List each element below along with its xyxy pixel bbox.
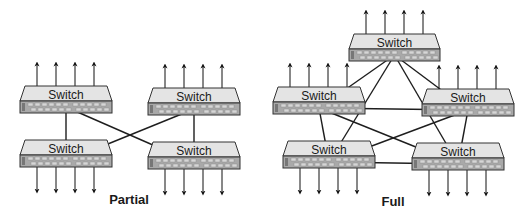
switch-port [395,56,400,59]
switch-led-block [351,51,354,59]
switch-port [465,160,470,163]
switch-port [357,158,362,161]
switch-port [319,158,324,161]
switch-port [201,105,206,108]
switch-port [326,158,331,161]
switch-led-block [285,158,288,166]
switch-port [211,110,216,113]
switch-port [305,158,310,161]
switch-f-right: Switch [422,89,514,116]
switch-port [45,108,50,111]
switch-p-br: Switch [148,142,240,169]
switch-port [489,165,494,168]
switch-port [472,160,477,163]
switch-port [312,109,317,112]
switch-port [170,105,175,108]
switch-port [353,163,358,166]
switch-port [423,165,428,168]
switch-p-tl: Switch [20,86,112,113]
switch-port [52,108,57,111]
switch-port [83,108,88,111]
switch-port [478,111,483,114]
switch-port [503,106,508,109]
switch-port [156,159,161,162]
switch-p-tr: Switch [148,88,240,115]
switch-port [63,157,68,160]
switch-port [360,56,365,59]
switch-port [447,111,452,114]
switch-led-block [22,157,25,165]
switch-port [493,160,498,163]
switch-port [66,108,71,111]
switch-port [215,159,220,162]
switch-port [316,104,321,107]
switch-port [66,162,71,165]
switch-label: Switch [176,90,211,104]
switch-port [184,105,189,108]
switch-port [166,164,171,167]
switch-port [441,160,446,163]
switch-port [28,103,33,106]
switch-port [458,165,463,168]
switch-port [80,103,85,106]
switch-port [208,105,213,108]
switch-port [49,103,54,106]
switch-port [42,157,47,160]
switch-port [333,104,338,107]
switch-port [461,111,466,114]
switch-port [90,162,95,165]
switch-port [455,160,460,163]
switch-port [73,157,78,160]
switch-port [329,163,334,166]
switch-port [218,110,223,113]
switch-port [412,56,417,59]
switch-port [63,103,68,106]
switch-led-block [150,105,153,113]
switch-port [295,104,300,107]
switch-port [298,158,303,161]
switch-port [90,108,95,111]
switch-port [229,159,234,162]
links-layer [66,55,468,164]
switch-port [159,110,164,113]
switch-port [437,165,442,168]
switch-port [31,162,36,165]
switch-port [291,158,296,161]
mesh-topology-diagram: SwitchSwitchSwitchSwitchSwitchSwitchSwit… [0,0,529,219]
switch-port [45,162,50,165]
switch-port [229,105,234,108]
switch-port [433,111,438,114]
switch-port [52,162,57,165]
switch-port [326,104,331,107]
switch-port [218,164,223,167]
switch-port [329,109,334,112]
switch-port [204,110,209,113]
switch-port [468,111,473,114]
switch-label: Switch [440,145,475,159]
switch-port [364,51,369,54]
switch-port [211,164,216,167]
switch-port [104,108,109,111]
switch-port [350,158,355,161]
switch-port [419,56,424,59]
switch-port [225,164,230,167]
switch-port [367,56,372,59]
switch-port [350,109,355,112]
switch-port [308,163,313,166]
switch-p-bl: Switch [20,140,112,167]
switch-port [343,158,348,161]
switch-led-block [22,103,25,111]
switch-port [163,159,168,162]
switch-port [302,104,307,107]
switch-port [201,159,206,162]
switch-port [80,157,85,160]
switch-port [426,56,431,59]
switch-label: Switch [450,91,485,105]
switch-label: Switch [48,88,83,102]
switch-port [204,164,209,167]
switch-port [381,56,386,59]
switch-port [367,163,372,166]
switch-port [101,157,106,160]
switch-port [486,160,491,163]
switch-port [187,110,192,113]
